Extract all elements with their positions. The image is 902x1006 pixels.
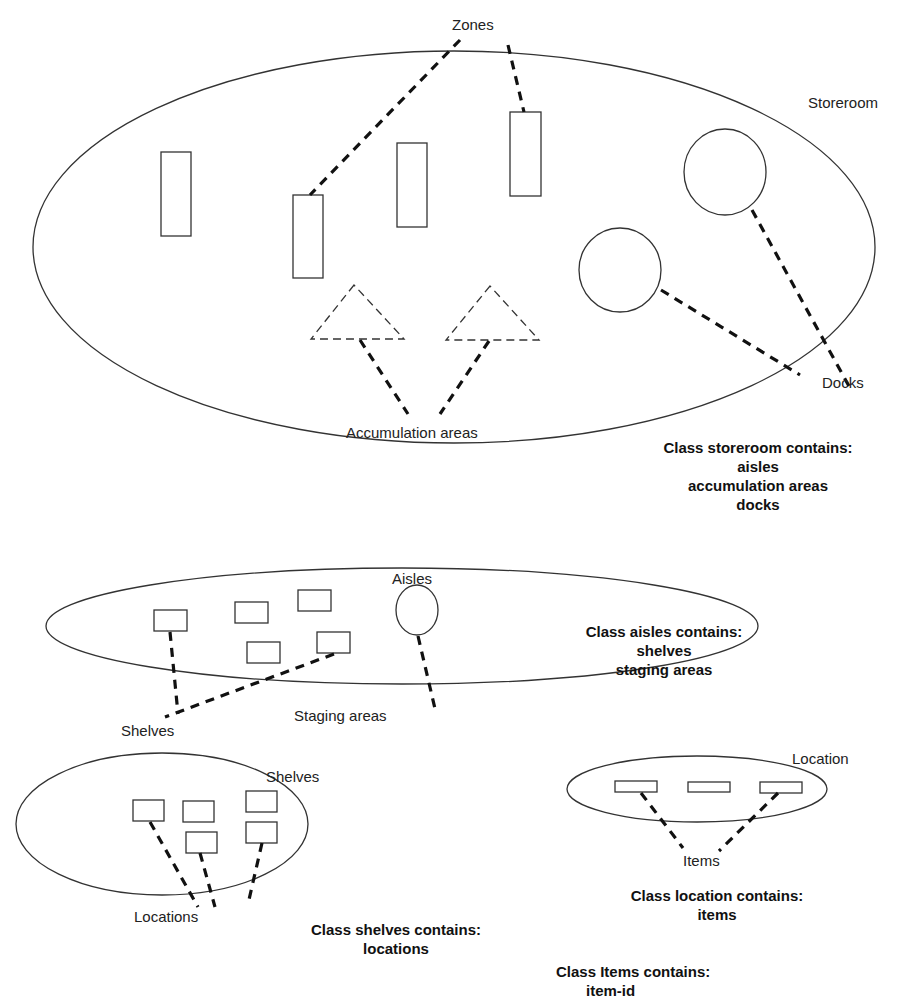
class-title: Class shelves contains: [306,920,486,939]
zone-rect [510,112,541,196]
accumulation-area-triangle [311,285,404,339]
location-rect [133,800,164,821]
accumulation-connector [360,340,408,414]
shelves-ellipse [16,753,308,895]
class-title: Class storeroom contains: [638,438,878,457]
items-connector [719,793,778,851]
dock-circle [684,129,766,215]
items-label: Items [683,852,720,869]
location-rect [183,801,214,822]
shelves-connector [170,632,178,714]
docks-connector [752,210,850,388]
class-title: Class location contains: [622,886,812,905]
staging-area-circle [396,585,438,635]
location-ellipse [567,756,827,822]
class-aisles-description: Class aisles contains: shelves staging a… [574,622,754,679]
zones-label: Zones [452,16,494,33]
zone-rect [397,143,427,227]
docks-connector [661,290,800,375]
zones-connector [310,40,460,195]
shelf-rect [154,610,187,631]
shelves-container-label: Shelves [266,768,319,785]
zone-rect [293,195,323,278]
class-storeroom-description: Class storeroom contains: aisles accumul… [638,438,878,514]
zones-connector [508,45,524,112]
location-rect [246,822,277,843]
location-container-label: Location [792,750,849,767]
item-rect [615,781,657,792]
docks-label: Docks [822,374,864,391]
locations-connector [200,853,215,907]
class-member: staging areas [574,660,754,679]
locations-label: Locations [134,908,198,925]
locations-connector [248,843,262,904]
staging-connector [418,636,436,713]
shelf-rect [247,642,280,663]
class-member: locations [306,939,486,958]
accumulation-area-triangle [446,286,539,340]
item-rect [760,782,802,793]
accumulation-connector [440,341,489,414]
aisles-label: Aisles [392,570,432,587]
class-items-description: Class Items contains: item-id [556,962,726,1000]
class-location-description: Class location contains: items [622,886,812,924]
shelves-pointer-label: Shelves [121,722,174,739]
shelf-rect [317,632,350,653]
shelf-rect [235,602,268,623]
class-member: item-id [556,981,726,1000]
zone-rect [161,152,191,236]
dock-circle [579,228,661,312]
accumulation-areas-label: Accumulation areas [346,424,478,441]
class-shelves-description: Class shelves contains: locations [306,920,486,958]
shelf-rect [298,590,331,611]
staging-areas-label: Staging areas [294,707,387,724]
class-member: shelves [574,641,754,660]
location-rect [186,832,217,853]
storeroom-label: Storeroom [808,94,878,111]
item-rect [688,782,730,792]
storeroom-ellipse [33,51,875,443]
items-connector [641,793,683,848]
location-rect [246,791,277,812]
class-title: Class aisles contains: [574,622,754,641]
class-member: items [622,905,812,924]
class-member: accumulation areas [638,476,878,495]
class-title: Class Items contains: [556,962,726,981]
class-member: docks [638,495,878,514]
class-member: aisles [638,457,878,476]
